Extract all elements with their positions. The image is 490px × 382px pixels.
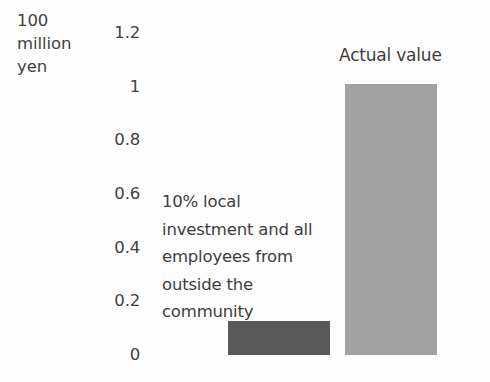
annotation-actual-value-label: Actual value (339, 45, 442, 65)
bar-chart: 100 million yen 1.2 1 0.8 0.6 0.4 0.2 0 … (0, 0, 490, 382)
bar-scenario-low-investment (228, 321, 330, 355)
annotation-scenario-label: 10% local investment and all employees f… (162, 188, 330, 326)
bar-actual-value (345, 84, 437, 355)
